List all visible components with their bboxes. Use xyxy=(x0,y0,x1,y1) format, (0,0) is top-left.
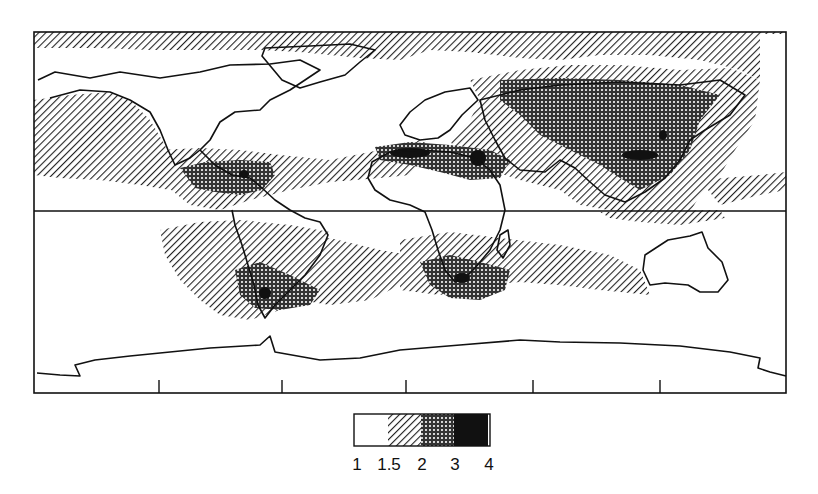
hatch-regions xyxy=(34,32,786,320)
legend-bin-3-4 xyxy=(454,414,488,446)
legend xyxy=(354,414,490,446)
legend-label-1.5: 1.5 xyxy=(377,455,401,475)
legend-label-2: 2 xyxy=(417,455,426,475)
legend-label-3: 3 xyxy=(450,455,459,475)
legend-label-1: 1 xyxy=(352,455,361,475)
legend-bin-1.5-2 xyxy=(388,414,421,446)
map-frame xyxy=(0,0,818,494)
bottom-ticks xyxy=(159,380,660,393)
legend-bin-1-1.5 xyxy=(354,414,388,446)
legend-bin-2-3 xyxy=(421,414,454,446)
legend-label-4: 4 xyxy=(484,455,493,475)
